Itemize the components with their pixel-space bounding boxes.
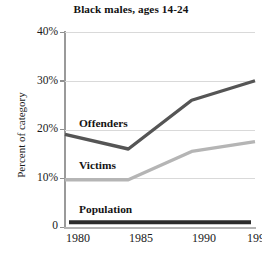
series-annotation-victims: Victims (77, 160, 118, 172)
series-annotation-population: Population (77, 204, 134, 216)
series-annotation-offenders: Offenders (77, 118, 130, 130)
series-line-offenders (65, 81, 255, 149)
series-layer (0, 0, 262, 259)
chart-figure: Black males, ages 14-24 Percent of categ… (0, 0, 262, 259)
